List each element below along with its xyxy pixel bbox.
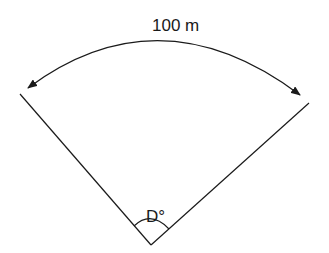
angle-label: D°	[146, 207, 165, 226]
radius-right-line	[151, 103, 309, 245]
sector-diagram: 100 m D°	[0, 0, 329, 253]
arc-length-label: 100 m	[152, 16, 199, 35]
radius-left-line	[20, 94, 151, 245]
arc-length-arrow	[28, 41, 300, 95]
